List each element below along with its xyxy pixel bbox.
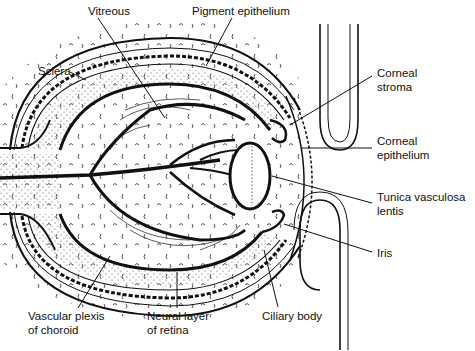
lens bbox=[230, 143, 270, 209]
label-corneal-stroma: Corneal stroma bbox=[377, 66, 417, 94]
label-vitreous: Vitreous bbox=[88, 4, 130, 18]
label-sclera: Sclera bbox=[38, 64, 71, 78]
label-corneal-epithelium: Corneal epithelium bbox=[377, 134, 429, 162]
label-neural-layer-of-retina: Neural layer of retina bbox=[147, 309, 209, 337]
label-pigment-epithelium: Pigment epithelium bbox=[192, 4, 290, 18]
label-ciliary-body: Ciliary body bbox=[262, 309, 322, 323]
label-iris: Iris bbox=[377, 246, 392, 260]
eye-diagram bbox=[0, 0, 475, 351]
label-vascular-plexis-of-choroid: Vascular plexis of choroid bbox=[28, 309, 105, 337]
label-tunica-vasculosa-lentis: Tunica vasculosa lentis bbox=[377, 190, 465, 218]
